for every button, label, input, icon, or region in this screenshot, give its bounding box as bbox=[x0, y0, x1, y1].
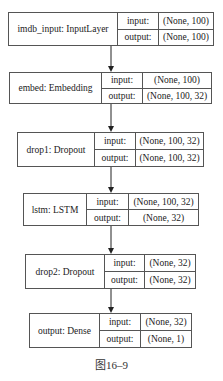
output-shape: (None, 1) bbox=[141, 330, 191, 347]
output-shape: (None, 32) bbox=[129, 209, 198, 225]
layer-node-imdb-input: imdb_input: InputLayer input: output: (N… bbox=[8, 12, 214, 46]
output-label: output: bbox=[100, 330, 140, 347]
input-label: input: bbox=[100, 314, 140, 330]
output-label: output: bbox=[105, 271, 144, 288]
layer-name: lstm: LSTM bbox=[24, 194, 87, 225]
layer-node-drop1: drop1: Dropout input: output: (None, 100… bbox=[17, 132, 204, 167]
output-label: output: bbox=[95, 149, 135, 166]
output-label: output: bbox=[118, 29, 158, 46]
input-shape: (None, 100, 32) bbox=[136, 133, 203, 149]
input-shape: (None, 100) bbox=[159, 13, 213, 29]
input-shape: (None, 32) bbox=[145, 255, 195, 271]
output-shape: (None, 100, 32) bbox=[136, 149, 203, 166]
input-label: input: bbox=[95, 133, 135, 149]
layer-name: imdb_input: InputLayer bbox=[9, 13, 118, 45]
layer-name: drop1: Dropout bbox=[18, 133, 95, 166]
layer-node-lstm: lstm: LSTM input: output: (None, 100, 32… bbox=[23, 193, 199, 226]
layer-node-embed: embed: Embedding input: output: (None, 1… bbox=[9, 72, 212, 104]
layer-name: output: Dense bbox=[30, 314, 100, 347]
output-shape: (None, 100) bbox=[159, 29, 213, 46]
output-shape: (None, 100, 32) bbox=[143, 88, 211, 104]
figure-caption: 图16–9 bbox=[0, 356, 223, 372]
input-shape: (None, 32) bbox=[141, 314, 191, 330]
layer-node-output-dense: output: Dense input: output: (None, 32) … bbox=[29, 313, 192, 348]
output-shape: (None, 32) bbox=[145, 271, 195, 288]
layer-name: drop2: Dropout bbox=[26, 255, 105, 288]
input-shape: (None, 100) bbox=[143, 73, 211, 88]
input-label: input: bbox=[102, 73, 142, 88]
layer-name: embed: Embedding bbox=[10, 73, 102, 103]
input-label: input: bbox=[87, 194, 128, 209]
layer-node-drop2: drop2: Dropout input: output: (None, 32)… bbox=[25, 254, 196, 289]
output-label: output: bbox=[87, 209, 128, 225]
input-label: input: bbox=[118, 13, 158, 29]
input-label: input: bbox=[105, 255, 144, 271]
input-shape: (None, 100, 32) bbox=[129, 194, 198, 209]
output-label: output: bbox=[102, 88, 142, 104]
